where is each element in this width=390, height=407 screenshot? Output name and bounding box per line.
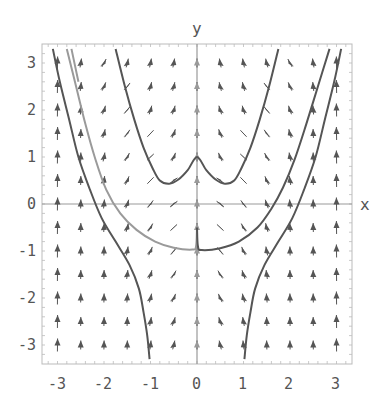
arrow-head-icon — [334, 221, 340, 228]
arrow-head-icon — [264, 130, 270, 137]
arrow-head-icon — [334, 198, 340, 205]
x-tick-label: 2 — [284, 375, 293, 393]
arrow-head-icon — [334, 174, 340, 181]
arrow-head-icon — [147, 270, 153, 278]
arrow-head-icon — [218, 317, 224, 325]
arrow-head-icon — [287, 247, 293, 254]
y-tick-label: -3 — [18, 336, 36, 354]
arrow-head-icon — [310, 270, 316, 277]
arrow-head-icon — [310, 223, 316, 230]
arrow-head-icon — [170, 82, 176, 90]
x-tick-label: -3 — [48, 375, 66, 393]
arrow-head-icon — [218, 341, 224, 349]
arrow-head-icon — [218, 129, 224, 137]
x-tick-label: 1 — [238, 375, 247, 393]
arrow-head-icon — [54, 221, 60, 228]
arrow-head-icon — [54, 151, 60, 158]
arrow-head-icon — [170, 341, 176, 349]
arrow-head-icon — [334, 127, 340, 134]
arrow-head-icon — [124, 247, 130, 254]
arrow-head-icon — [147, 317, 153, 324]
arrow-head-icon — [287, 294, 293, 301]
arrow-head-icon — [218, 59, 224, 66]
arrow-head-icon — [334, 315, 340, 322]
arrow-head-icon — [241, 82, 247, 90]
arrow-head-icon — [194, 341, 200, 348]
arrow-head-icon — [194, 317, 200, 324]
arrow-head-icon — [124, 223, 130, 231]
arrow-head-icon — [101, 247, 107, 254]
arrow-head-icon — [264, 317, 270, 324]
arrow-head-icon — [170, 106, 176, 114]
arrow-head-icon — [54, 104, 60, 111]
arrow-head-icon — [287, 270, 293, 277]
arrow-head-icon — [310, 247, 316, 254]
arrow-head-icon — [78, 200, 84, 207]
arrow-head-icon — [147, 294, 153, 302]
arrow-head-icon — [124, 341, 130, 348]
arrow-head-icon — [78, 129, 84, 136]
arrow-head-icon — [241, 294, 247, 302]
arrow-head-icon — [194, 200, 200, 207]
y-tick-label: 2 — [27, 101, 36, 119]
arrow-head-icon — [78, 341, 84, 348]
arrow-head-icon — [287, 341, 293, 348]
arrow-head-icon — [218, 106, 224, 114]
arrow-head-icon — [310, 176, 316, 183]
direction-field-plot: y x -3 -2 -1 0 1 2 3 3 2 1 0 -1 -2 -3 — [0, 0, 390, 407]
x-tick-label: 0 — [192, 375, 201, 393]
upper-left-gray-curve — [71, 49, 78, 82]
arrow-head-icon — [310, 317, 316, 324]
y-tick-label: 3 — [27, 54, 36, 72]
arrow-head-icon — [288, 106, 294, 114]
arrow-head-icon — [54, 292, 60, 299]
arrow-head-icon — [311, 59, 317, 66]
arrow-head-icon — [287, 317, 293, 324]
arrow-head-icon — [310, 129, 316, 136]
arrow-head-icon — [54, 198, 60, 205]
lower-u-curve-right — [197, 49, 330, 250]
arrow-head-icon — [311, 82, 317, 89]
arrow-head-icon — [310, 294, 316, 301]
arrow-head-icon — [77, 59, 83, 66]
y-tick-label: -1 — [18, 242, 36, 260]
arrow-head-icon — [100, 129, 106, 137]
arrow-head-icon — [264, 270, 270, 277]
arrow-head-icon — [147, 59, 153, 66]
arrow-head-icon — [170, 59, 176, 66]
arrow-head-icon — [264, 341, 270, 348]
y-tick-label: 1 — [27, 148, 36, 166]
arrow-head-icon — [101, 317, 107, 324]
arrow-head-icon — [264, 59, 270, 67]
arrow-head-icon — [241, 106, 247, 114]
arrow-head-icon — [124, 317, 130, 324]
arrow-head-icon — [288, 129, 294, 137]
arrow-head-icon — [54, 174, 60, 181]
arrow-head-icon — [194, 106, 200, 113]
arrow-head-icon — [241, 270, 247, 278]
arrow-head-icon — [194, 59, 200, 66]
arrow-head-icon — [288, 153, 294, 160]
y-tick-label: -2 — [18, 289, 36, 307]
arrow-head-icon — [54, 127, 60, 134]
y-axis-title: y — [192, 19, 202, 38]
arrow-head-icon — [334, 151, 340, 158]
arrow-head-icon — [194, 176, 200, 183]
arrow-head-icon — [54, 268, 60, 275]
arrow-head-icon — [101, 294, 107, 301]
arrow-head-icon — [54, 315, 60, 322]
arrow-head-icon — [194, 82, 200, 89]
x-axis-title: x — [360, 195, 370, 214]
arrow-head-icon — [287, 200, 293, 207]
arrow-head-icon — [170, 317, 176, 325]
lower-u-curve-left — [67, 49, 197, 250]
arrow-head-icon — [147, 106, 153, 114]
x-tick-label: -2 — [94, 375, 112, 393]
arrow-head-icon — [264, 247, 270, 254]
arrow-head-icon — [147, 82, 153, 90]
arrow-head-icon — [241, 59, 247, 66]
arrow-head-icon — [334, 268, 340, 275]
arrow-head-icon — [78, 317, 84, 324]
arrow-head-icon — [78, 223, 84, 230]
arrow-head-icon — [194, 129, 200, 136]
